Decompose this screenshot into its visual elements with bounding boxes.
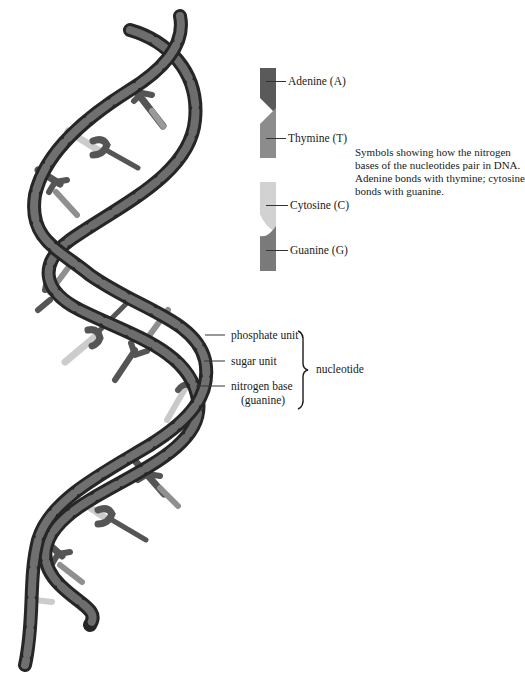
sugar-unit-label: sugar unit bbox=[231, 354, 277, 368]
adenine-leader bbox=[266, 81, 286, 82]
legend-thymine-label: Thymine (T) bbox=[288, 131, 347, 145]
phosphate-unit-label: phosphate unit bbox=[231, 328, 298, 342]
cytosine-symbol-icon bbox=[260, 182, 276, 232]
legend-guanine-label: Guanine (G) bbox=[290, 243, 348, 257]
nucleotide-label: nucleotide bbox=[316, 362, 364, 376]
thymine-symbol-icon bbox=[260, 108, 276, 158]
legend-cytosine-label: Cytosine (C) bbox=[290, 198, 349, 212]
nitrogen-base-sublabel: (guanine) bbox=[241, 393, 285, 407]
guanine-leader bbox=[266, 250, 288, 251]
nucleotide-brace-icon bbox=[296, 329, 310, 411]
legend-note: Symbols showing how the nitrogen bases o… bbox=[355, 146, 525, 198]
guanine-symbol-icon bbox=[260, 226, 276, 271]
nitrogen-base-label: nitrogen base bbox=[231, 379, 293, 393]
legend-adenine-label: Adenine (A) bbox=[288, 74, 346, 88]
cytosine-leader bbox=[266, 205, 288, 206]
thymine-leader bbox=[266, 138, 286, 139]
